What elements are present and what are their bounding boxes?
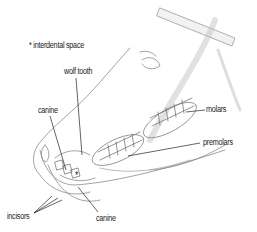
label-incisors: incisors xyxy=(7,211,29,221)
label-molars: molars xyxy=(206,104,226,114)
label-canine-upper: canine xyxy=(38,105,58,115)
eye-brow xyxy=(140,51,156,56)
leader-wolf-tooth xyxy=(76,78,82,155)
label-wolf-tooth: wolf tooth xyxy=(64,66,92,76)
premolar-arcade xyxy=(88,128,148,172)
horse-dental-diagram: * interdental space wolf tooth canine mo… xyxy=(0,0,257,232)
horse-head-sketch xyxy=(0,0,257,232)
eye-shape xyxy=(142,58,160,69)
leader-canine-upper xyxy=(50,116,66,170)
rear-strap xyxy=(218,50,240,110)
leader-incisors-1 xyxy=(34,196,52,213)
interdental-asterisk: * xyxy=(75,170,78,181)
leader-incisors-2 xyxy=(34,198,58,213)
face-profile-line xyxy=(42,48,130,140)
label-premolars: premolars xyxy=(203,137,233,147)
label-canine-lower: canine xyxy=(96,213,116,223)
leader-canine-lower xyxy=(78,187,98,212)
chin-curve xyxy=(150,145,225,170)
leader-incisors-3 xyxy=(34,200,62,213)
bridle-strap xyxy=(157,8,235,46)
interdental-space-note: * interdental space xyxy=(29,40,84,50)
nostril xyxy=(41,145,49,162)
tooth-grid xyxy=(98,98,194,160)
